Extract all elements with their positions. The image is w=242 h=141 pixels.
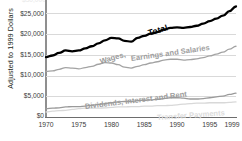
y-tick-label: $5,000 xyxy=(6,92,44,99)
y-tick-label: $0 xyxy=(6,112,44,119)
x-tick-label: 1980 xyxy=(104,121,119,128)
y-axis-tick-labels: $25,000 $20,000 $15,000 $10,000 $5,000 $… xyxy=(6,0,44,141)
y-tick-label: $10,000 xyxy=(6,71,44,78)
x-tick-label: 1995 xyxy=(202,121,217,128)
chart-container: $30,000 Adjusted to 1999 Dollars $25,000… xyxy=(0,0,242,141)
y-tick-label: $15,000 xyxy=(6,51,44,58)
x-tick-label: 1975 xyxy=(71,121,86,128)
x-tick-label: 1990 xyxy=(169,121,184,128)
x-tick-label: 1985 xyxy=(137,121,152,128)
y-tick-label: $25,000 xyxy=(6,10,44,17)
x-tick-label: 1970 xyxy=(38,121,53,128)
x-tick-label: 1999 xyxy=(224,121,239,128)
y-tick-label: $20,000 xyxy=(6,30,44,37)
